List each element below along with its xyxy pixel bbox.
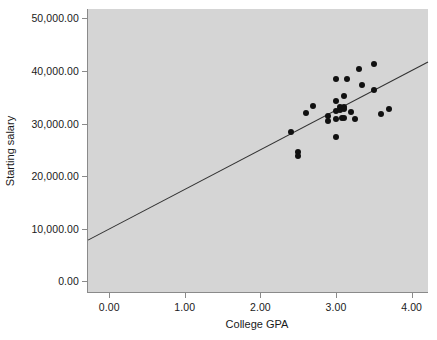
data-point bbox=[333, 134, 339, 140]
y-tick-label: 10,000.00 bbox=[31, 223, 79, 235]
y-tick-mark bbox=[82, 18, 88, 19]
data-point bbox=[348, 109, 354, 115]
data-point bbox=[341, 93, 347, 99]
data-point bbox=[303, 110, 309, 116]
data-point bbox=[356, 66, 362, 72]
x-tick-label: 3.00 bbox=[326, 301, 347, 313]
x-tick-mark bbox=[109, 292, 110, 298]
y-tick-label: 30,000.00 bbox=[31, 118, 79, 130]
y-axis-title: Starting salary bbox=[4, 116, 16, 186]
data-point bbox=[288, 129, 294, 135]
y-tick-mark bbox=[82, 176, 88, 177]
data-point bbox=[371, 61, 377, 67]
plot-area: 0.0010,000.0020,000.0030,000.0040,000.00… bbox=[87, 9, 428, 293]
x-tick-mark bbox=[260, 292, 261, 298]
x-tick-label: 1.00 bbox=[174, 301, 195, 313]
data-point bbox=[325, 118, 331, 124]
x-tick-mark bbox=[185, 292, 186, 298]
y-tick-label: 0.00 bbox=[58, 275, 79, 287]
y-tick-label: 50,000.00 bbox=[31, 12, 79, 24]
y-tick-mark bbox=[82, 71, 88, 72]
data-point bbox=[352, 116, 358, 122]
x-tick-label: 4.00 bbox=[401, 301, 422, 313]
y-tick-mark bbox=[82, 124, 88, 125]
data-point bbox=[333, 76, 339, 82]
plot-inner bbox=[88, 9, 428, 292]
y-tick-label: 20,000.00 bbox=[31, 170, 79, 182]
data-point bbox=[295, 153, 301, 159]
y-tick-label: 40,000.00 bbox=[31, 65, 79, 77]
x-tick-mark bbox=[336, 292, 337, 298]
x-tick-label: 0.00 bbox=[99, 301, 120, 313]
regression-line bbox=[88, 9, 428, 292]
data-point bbox=[333, 98, 339, 104]
scatter-plot-figure: 0.0010,000.0020,000.0030,000.0040,000.00… bbox=[0, 0, 437, 340]
x-tick-label: 2.00 bbox=[250, 301, 271, 313]
data-point bbox=[371, 87, 377, 93]
data-point bbox=[341, 115, 347, 121]
x-axis-title: College GPA bbox=[226, 318, 289, 330]
x-tick-mark bbox=[412, 292, 413, 298]
y-tick-mark bbox=[82, 281, 88, 282]
y-tick-mark bbox=[82, 229, 88, 230]
